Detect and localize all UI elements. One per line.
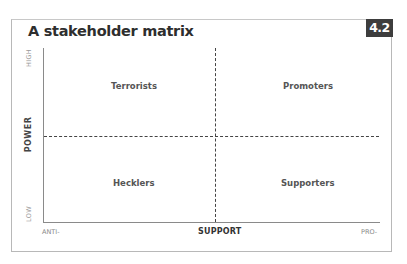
x-axis-high-label: PRO- [361,228,377,236]
figure-number-badge: 4.2 [366,19,393,37]
x-axis-low-label: ANTI- [42,228,60,236]
y-axis-title: POWER [24,115,33,155]
horizontal-divider-dashed [44,136,379,137]
y-axis-low-label: LOW [25,204,33,224]
quadrant-label-terrorists: Terrorists [111,81,157,91]
quadrant-label-hecklers: Hecklers [113,178,155,188]
figure-title: A stakeholder matrix [28,23,194,39]
x-axis-title: SUPPORT [198,227,241,236]
quadrant-label-supporters: Supporters [281,178,334,188]
y-axis-high-label: HIGH [25,46,33,70]
vertical-divider-dashed [215,48,216,222]
x-axis-line [43,222,380,223]
quadrant-label-promoters: Promoters [283,81,333,91]
